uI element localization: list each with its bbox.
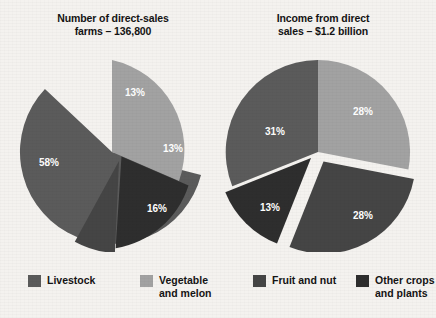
legend-label-livestock: Livestock bbox=[47, 274, 95, 287]
pie-chart-income-svg: 28% 28% 13% 31% bbox=[222, 56, 418, 252]
legend-label-other-crops-and-plants: Other crops and plants bbox=[375, 274, 435, 299]
pie-label-farms-livestock: 58% bbox=[39, 157, 59, 168]
pie-label-income-other-crops-and-plants: 13% bbox=[260, 202, 280, 213]
legend-item-vegetable-and-melon[interactable]: Vegetable and melon bbox=[140, 274, 212, 299]
figure-root: Number of direct-sales farms – 136,800 I… bbox=[0, 0, 436, 318]
pie-label-income-fruit-and-nut: 28% bbox=[353, 210, 373, 221]
pie-label-income-livestock: 31% bbox=[265, 126, 285, 137]
pie-chart-income: 28% 28% 13% 31% bbox=[222, 56, 418, 252]
pie-slice-income-fruit-and-nut[interactable] bbox=[290, 162, 414, 253]
legend-swatch-fruit-and-nut bbox=[253, 275, 266, 287]
legend-swatch-vegetable-and-melon bbox=[140, 275, 153, 287]
pie-label-farms-fruit-and-nut: 16% bbox=[147, 203, 167, 214]
legend-item-livestock[interactable]: Livestock bbox=[28, 274, 95, 287]
chart-title-income: Income from direct sales – $1.2 billion bbox=[238, 12, 408, 38]
legend-label-vegetable-and-melon: Vegetable and melon bbox=[159, 274, 212, 299]
legend-item-other-crops-and-plants[interactable]: Other crops and plants bbox=[356, 274, 435, 299]
pie-label-farms-vegetable-and-melon: 13% bbox=[125, 87, 145, 98]
pie-label-farms-other-crops-and-plants: 13% bbox=[163, 143, 183, 154]
legend-swatch-other-crops-and-plants bbox=[356, 275, 369, 287]
pie-label-income-vegetable-and-melon: 28% bbox=[353, 106, 373, 117]
legend-label-fruit-and-nut: Fruit and nut bbox=[272, 274, 336, 287]
chart-title-farms: Number of direct-sales farms – 136,800 bbox=[28, 12, 198, 38]
legend-item-fruit-and-nut[interactable]: Fruit and nut bbox=[253, 274, 336, 287]
legend: Livestock Vegetable and melon Fruit and … bbox=[0, 274, 436, 316]
pie-chart-farms: 13% 13% 16% 58% bbox=[16, 56, 212, 252]
pie-chart-farms-svg: 13% 13% 16% 58% bbox=[16, 56, 212, 252]
legend-swatch-livestock bbox=[28, 275, 41, 287]
